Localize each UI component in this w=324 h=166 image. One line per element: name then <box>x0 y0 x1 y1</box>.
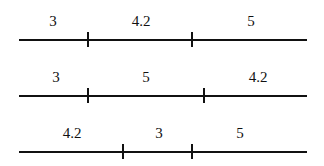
number-line <box>19 39 307 41</box>
segment-label: 5 <box>236 125 244 141</box>
tick-mark <box>87 88 89 103</box>
segment-row-1: 3 4.2 5 <box>0 10 324 50</box>
number-line <box>19 151 307 153</box>
tick-mark <box>191 32 193 47</box>
number-line <box>19 95 307 97</box>
segment-label: 3 <box>49 13 57 29</box>
segment-label: 3 <box>155 125 163 141</box>
segment-label: 4.2 <box>63 125 82 141</box>
tick-mark <box>203 88 205 103</box>
segment-row-3: 4.2 3 5 <box>0 122 324 162</box>
segment-label: 5 <box>142 69 150 85</box>
tick-mark <box>87 32 89 47</box>
segment-row-2: 3 5 4.2 <box>0 66 324 106</box>
segment-label: 5 <box>247 13 255 29</box>
tick-mark <box>122 144 124 159</box>
segment-label: 3 <box>52 69 60 85</box>
tick-mark <box>191 144 193 159</box>
segment-label: 4.2 <box>249 69 268 85</box>
segment-label: 4.2 <box>132 13 151 29</box>
